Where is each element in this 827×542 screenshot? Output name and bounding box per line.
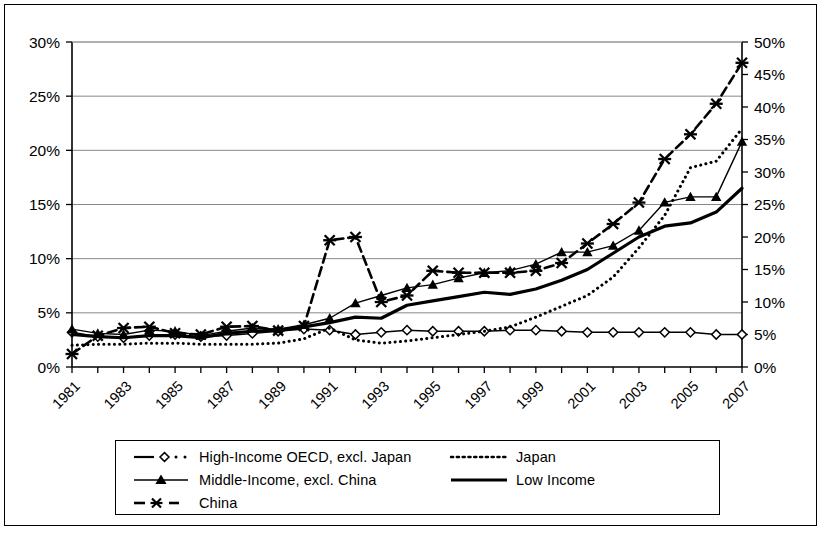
series-marker-0 <box>660 328 669 337</box>
series-marker-0 <box>609 328 618 337</box>
x-tick-label: 2005 <box>667 378 701 412</box>
series-line-4 <box>72 63 742 354</box>
x-tick-label: 1985 <box>152 378 186 412</box>
y-tick-label-left: 15% <box>29 196 60 213</box>
legend-label: Low Income <box>516 471 595 489</box>
series-marker-0 <box>402 326 411 335</box>
series-marker-2 <box>67 324 77 333</box>
x-tick-label: 2007 <box>719 378 753 412</box>
series-marker-4 <box>632 198 645 208</box>
y-tick-label-right: 20% <box>754 229 785 246</box>
y-tick-label-left: 25% <box>29 88 60 105</box>
legend-item-low-income: Low Income <box>449 469 595 491</box>
series-marker-4 <box>555 258 568 268</box>
legend-label: Middle-Income, excl. China <box>199 471 376 489</box>
series-marker-0 <box>686 328 695 337</box>
y-tick-label-right: 45% <box>754 66 785 83</box>
x-tick-label: 1993 <box>358 378 392 412</box>
series-marker-4 <box>658 154 671 164</box>
dotted-line-icon <box>449 448 511 466</box>
x-tick-label: 1997 <box>461 378 495 412</box>
legend-item-china: China <box>132 492 237 514</box>
y-tick-label-right: 10% <box>754 294 785 311</box>
series-marker-0 <box>377 328 386 337</box>
y-tick-label-right: 40% <box>754 99 785 116</box>
chart-figure: 0%5%10%15%20%25%30%0%5%10%15%20%25%30%35… <box>0 0 827 542</box>
legend-label: Japan <box>516 448 556 466</box>
legend-item-high-income-oecd: High-Income OECD, excl. Japan <box>132 446 411 468</box>
legend-item-middle-income: Middle-Income, excl. China <box>132 469 376 491</box>
series-line-3 <box>72 188 742 338</box>
x-tick-label: 1987 <box>204 378 238 412</box>
y-tick-label-right: 15% <box>754 261 785 278</box>
series-marker-0 <box>737 330 746 339</box>
y-tick-label-left: 10% <box>29 250 60 267</box>
x-tick-label: 1981 <box>49 378 83 412</box>
x-tick-label: 2003 <box>616 378 650 412</box>
x-tick-label: 2001 <box>564 378 598 412</box>
series-marker-0 <box>531 326 540 335</box>
series-marker-0 <box>634 328 643 337</box>
legend-label: High-Income OECD, excl. Japan <box>199 448 411 466</box>
cross-icon <box>132 494 194 512</box>
y-tick-label-right: 50% <box>754 34 785 51</box>
series-marker-4 <box>426 266 439 276</box>
triangle-filled-icon <box>132 471 194 489</box>
y-tick-label-right: 30% <box>754 164 785 181</box>
y-tick-label-left: 30% <box>29 34 60 51</box>
y-tick-label-right: 5% <box>754 326 777 343</box>
series-marker-4 <box>684 129 697 139</box>
series-marker-4 <box>607 219 620 229</box>
legend-item-japan: Japan <box>449 446 556 468</box>
series-marker-2 <box>737 136 747 145</box>
series-marker-2 <box>608 240 618 249</box>
chart-legend: High-Income OECD, excl. Japan Middle-Inc… <box>115 440 720 515</box>
series-marker-0 <box>583 328 592 337</box>
x-tick-label: 1995 <box>410 378 444 412</box>
x-tick-label: 1983 <box>101 378 135 412</box>
legend-label: China <box>199 494 237 512</box>
x-tick-label: 1989 <box>255 378 289 412</box>
series-marker-0 <box>428 327 437 336</box>
y-tick-label-left: 20% <box>29 142 60 159</box>
x-tick-label: 1991 <box>307 378 341 412</box>
x-tick-label: 1999 <box>513 378 547 412</box>
y-tick-label-left: 5% <box>38 304 61 321</box>
series-marker-0 <box>557 327 566 336</box>
y-tick-label-right: 0% <box>754 359 777 376</box>
series-marker-4 <box>710 99 723 109</box>
y-tick-label-right: 25% <box>754 196 785 213</box>
y-tick-label-right: 35% <box>754 131 785 148</box>
diamond-open-icon <box>132 448 194 466</box>
y-tick-label-left: 0% <box>38 359 61 376</box>
series-marker-4 <box>349 232 362 242</box>
solid-line-icon <box>449 471 511 489</box>
series-marker-0 <box>712 330 721 339</box>
